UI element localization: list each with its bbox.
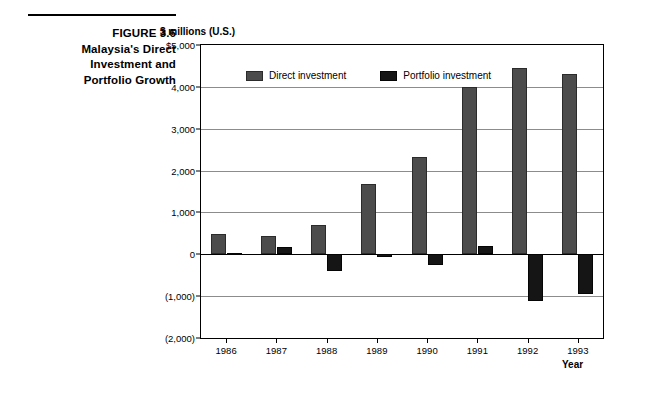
x-axis-title: Year: [562, 359, 583, 370]
legend-swatch-direct-investment: [246, 71, 263, 81]
bar-1989-portfolio: [377, 254, 392, 257]
x-tick-mark-1993: [578, 338, 579, 343]
bar-chart-figure: $ millions (U.S.) 1986198719881989199019…: [158, 26, 658, 391]
x-tick-mark-1991: [477, 338, 478, 343]
y-tick-mark-5000: [196, 45, 201, 46]
bar-1993-portfolio: [578, 254, 593, 294]
y-tick-label-4000: 4,000: [135, 81, 195, 92]
bar-1992-direct: [512, 68, 527, 254]
caption-divider-rule: [28, 14, 176, 16]
x-tick-mark-1990: [427, 338, 428, 343]
gridline-1000: [201, 212, 603, 213]
legend-swatch-portfolio-investment: [380, 71, 397, 81]
x-tick-label-1986: 1986: [216, 345, 237, 356]
y-axis-title: $ millions (U.S.): [160, 26, 235, 37]
x-tick-label-1993: 1993: [567, 345, 588, 356]
legend-label-portfolio-investment: Portfolio investment: [403, 70, 491, 81]
y-tick-mark--2000: [196, 338, 201, 339]
bar-1990-portfolio: [428, 254, 443, 265]
x-tick-mark-1989: [377, 338, 378, 343]
bar-1986-direct: [211, 234, 226, 254]
bar-1987-direct: [261, 236, 276, 254]
bar-1988-portfolio: [327, 254, 342, 271]
x-tick-label-1992: 1992: [517, 345, 538, 356]
y-tick-label--1000: (1,000): [135, 291, 195, 302]
x-tick-mark-1986: [226, 338, 227, 343]
legend-entry-portfolio-investment: Portfolio investment: [380, 70, 491, 81]
y-tick-mark-1000: [196, 212, 201, 213]
y-tick-label-3000: 3,000: [135, 123, 195, 134]
bar-1993-direct: [562, 74, 577, 254]
x-tick-label-1988: 1988: [316, 345, 337, 356]
bar-1991-direct: [462, 87, 477, 254]
gridline-4000: [201, 87, 603, 88]
bar-1988-direct: [311, 225, 326, 254]
y-tick-mark--1000: [196, 296, 201, 297]
caption-line-3: Investment and: [28, 57, 176, 73]
chart-legend: Direct investment Portfolio investment: [246, 70, 491, 81]
bar-1990-direct: [412, 157, 427, 255]
legend-entry-direct-investment: Direct investment: [246, 70, 346, 81]
gridline-2000: [201, 171, 603, 172]
y-tick-label-1000: 1,000: [135, 207, 195, 218]
x-tick-label-1987: 1987: [266, 345, 287, 356]
bar-1986-portfolio: [227, 253, 242, 255]
y-tick-mark-3000: [196, 128, 201, 129]
x-tick-mark-1992: [528, 338, 529, 343]
bar-1989-direct: [361, 184, 376, 254]
bar-1987-portfolio: [277, 247, 292, 255]
plot-area: 19861987198819891990199119921993 $5,0004…: [200, 44, 604, 339]
gridline-3000: [201, 129, 603, 130]
y-tick-label-5000: $5,000: [135, 40, 195, 51]
y-tick-label-2000: 2,000: [135, 165, 195, 176]
y-tick-mark-0: [196, 254, 201, 255]
figure-caption-block: FIGURE 3.6 Malaysia's Direct Investment …: [28, 14, 176, 88]
legend-label-direct-investment: Direct investment: [269, 70, 346, 81]
x-tick-label-1989: 1989: [366, 345, 387, 356]
x-tick-label-1990: 1990: [417, 345, 438, 356]
y-tick-label--2000: (2,000): [135, 333, 195, 344]
x-tick-mark-1987: [276, 338, 277, 343]
bar-1992-portfolio: [528, 254, 543, 300]
y-tick-mark-4000: [196, 86, 201, 87]
x-tick-mark-1988: [327, 338, 328, 343]
bar-1991-portfolio: [478, 246, 493, 254]
x-tick-label-1991: 1991: [467, 345, 488, 356]
figure-caption-text: FIGURE 3.6 Malaysia's Direct Investment …: [28, 26, 176, 88]
y-tick-mark-2000: [196, 170, 201, 171]
y-tick-label-0: 0: [135, 249, 195, 260]
